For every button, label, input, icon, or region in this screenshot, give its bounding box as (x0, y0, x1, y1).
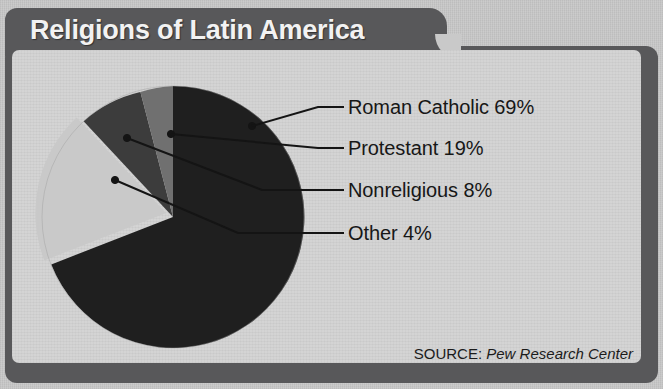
leader-line-roman-catholic (252, 107, 344, 126)
pie-label-nonreligious: Nonreligious 8% (348, 179, 492, 202)
chart-card: Religions of Latin America (0, 0, 663, 389)
pie-label-roman-catholic: Roman Catholic 69% (348, 96, 534, 119)
pie-chart (0, 0, 663, 389)
source-prefix: SOURCE: (414, 345, 482, 362)
pie-label-other: Other 4% (348, 222, 432, 245)
source-name: Pew Research Center (486, 345, 633, 362)
pie-label-protestant: Protestant 19% (348, 137, 483, 160)
pie-slices (35, 86, 304, 348)
source-attribution: SOURCE: Pew Research Center (414, 345, 633, 362)
